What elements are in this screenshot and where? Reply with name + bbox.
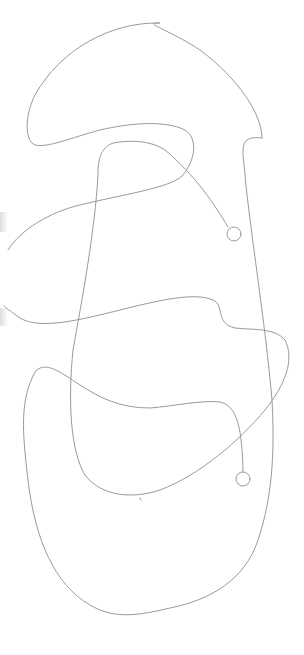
lower-circle-endpoint — [236, 472, 250, 486]
upper-circle-endpoint — [227, 227, 241, 241]
cap-outline-path — [8, 23, 262, 250]
line-drawing — [0, 0, 304, 655]
stray-mark — [140, 498, 141, 500]
stem-left-path — [4, 141, 289, 495]
stem-right-path — [24, 138, 274, 615]
